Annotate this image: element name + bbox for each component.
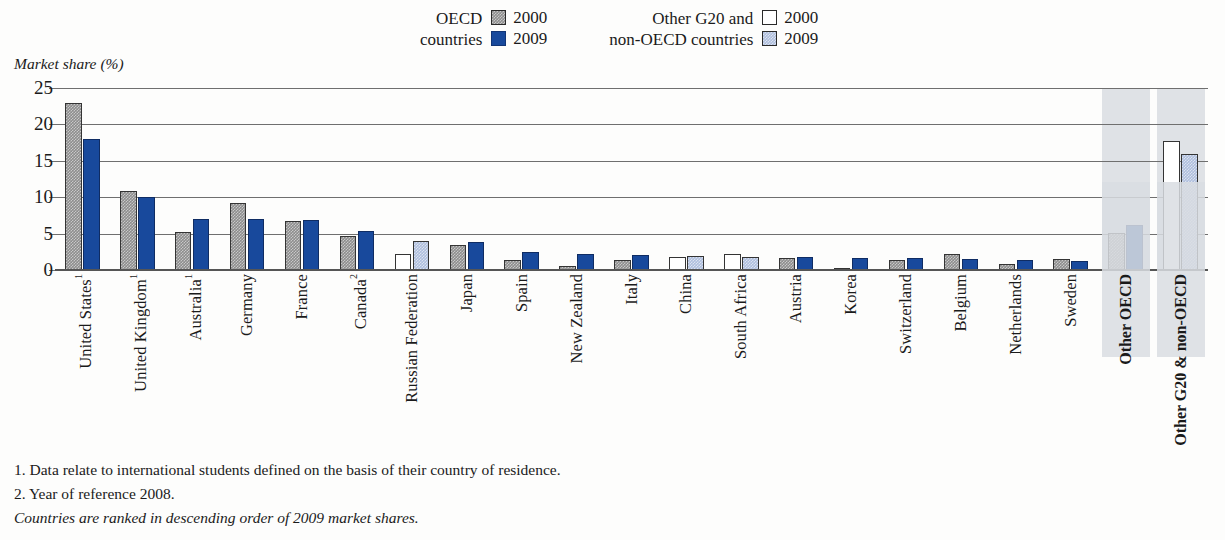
x-axis-label: Korea [843, 274, 860, 315]
light-blue-hatch-swatch [762, 31, 777, 46]
note-2: 2. Year of reference 2008. [14, 482, 1194, 506]
footnote-marker: 1 [73, 274, 84, 279]
bar-group[interactable] [604, 88, 659, 270]
footnote-marker: 1 [183, 274, 194, 279]
bar-2009[interactable] [468, 242, 485, 270]
bar-2000[interactable] [120, 191, 137, 270]
y-axis-tick-label: 10 [34, 186, 53, 208]
bar-2000[interactable] [65, 103, 82, 270]
bar-group[interactable] [879, 88, 934, 270]
bar-2000[interactable] [175, 232, 192, 270]
legend-item-label: 2009 [513, 29, 547, 48]
bar-group[interactable] [824, 88, 879, 270]
bar-2000[interactable] [285, 221, 302, 270]
y-axis-tick-label: 5 [44, 223, 54, 245]
bar-2009[interactable] [138, 197, 155, 270]
legend-group-non-oecd: Other G20 andnon-OECD countries20002009 [609, 8, 818, 50]
x-axis-line [55, 269, 1208, 271]
bar-group[interactable] [275, 88, 330, 270]
legend-keys: 20002009 [491, 8, 547, 48]
x-axis-label: Netherlands [1008, 274, 1025, 355]
bar-2009[interactable] [248, 219, 265, 270]
bar-2009[interactable] [962, 259, 979, 270]
bar-group[interactable] [988, 88, 1043, 270]
bar-group[interactable] [494, 88, 549, 270]
legend-item[interactable]: 2000 [491, 8, 547, 27]
bar-2000[interactable] [669, 257, 686, 270]
x-axis-label: Spain [514, 274, 531, 312]
bar-2009[interactable] [577, 254, 594, 270]
y-axis-tick-label: 25 [34, 77, 53, 99]
x-axis-label: Other G20 & non-OECD [1173, 274, 1189, 446]
bar-group[interactable] [384, 88, 439, 270]
x-axis-label: Belgium [953, 274, 970, 332]
bar-2009[interactable] [687, 256, 704, 270]
bar-group[interactable] [110, 88, 165, 270]
chart-figure: OECDcountries20002009Other G20 andnon-OE… [0, 0, 1225, 540]
x-axis-label: France [294, 274, 311, 320]
bar-series [55, 88, 1210, 270]
x-axis-label: China [678, 274, 695, 314]
note-1: 1. Data relate to international students… [14, 458, 1194, 482]
legend-item-label: 2000 [784, 8, 818, 27]
bar-2009[interactable] [83, 139, 100, 270]
x-axis-label: United States1 [74, 274, 94, 369]
legend-item[interactable]: 2009 [491, 29, 547, 48]
bar-2009[interactable] [193, 219, 210, 270]
x-axis-label: Switzerland [898, 274, 915, 354]
bar-2000[interactable] [944, 254, 961, 270]
bar-2000[interactable] [395, 254, 412, 270]
bar-2009[interactable] [742, 257, 759, 270]
bar-2009[interactable] [632, 255, 649, 270]
bar-2000[interactable] [230, 203, 247, 270]
bar-group[interactable] [769, 88, 824, 270]
bar-group[interactable] [549, 88, 604, 270]
x-axis-label: Sweden [1063, 274, 1080, 327]
bar-2000[interactable] [1053, 259, 1070, 270]
legend-item[interactable]: 2000 [762, 8, 818, 27]
bar-2009[interactable] [907, 258, 924, 270]
x-axis-label: New Zealand [569, 274, 586, 364]
note-ranking: Countries are ranked in descending order… [14, 506, 1194, 530]
legend-group-label: Other G20 andnon-OECD countries [609, 8, 762, 50]
bar-2009[interactable] [522, 252, 539, 270]
bar-2009[interactable] [797, 257, 814, 270]
bar-2000[interactable] [450, 245, 467, 270]
footnote-marker: 1 [128, 274, 139, 279]
x-axis-label: Canada2 [349, 274, 369, 329]
y-axis-tick-label: 20 [34, 113, 53, 135]
bar-group[interactable] [439, 88, 494, 270]
x-axis-label: Germany [239, 274, 256, 336]
bar-group[interactable] [714, 88, 769, 270]
bar-group[interactable] [330, 88, 385, 270]
x-axis-labels: United States1United Kingdom1Australia1G… [55, 274, 1210, 444]
x-axis-label: Japan [459, 274, 476, 312]
x-axis-label: Italy [624, 274, 641, 305]
bar-2009[interactable] [413, 241, 430, 270]
bar-group[interactable] [933, 88, 988, 270]
legend-group-oecd: OECDcountries20002009 [420, 8, 547, 50]
bar-2009[interactable] [358, 231, 375, 270]
y-axis-tick-label: 15 [34, 150, 53, 172]
solid-blue-swatch [491, 31, 506, 46]
plot-area: 0510152025 [55, 88, 1210, 270]
white-swatch [762, 10, 777, 25]
bar-2000[interactable] [724, 254, 741, 270]
bar-2009[interactable] [303, 220, 320, 270]
bar-group[interactable] [55, 88, 110, 270]
legend-group-label: OECDcountries [420, 8, 491, 50]
legend-item[interactable]: 2009 [762, 29, 818, 48]
legend-item-label: 2000 [513, 8, 547, 27]
x-axis-label: Russian Federation [404, 274, 421, 403]
bar-group[interactable] [220, 88, 275, 270]
bar-2000[interactable] [340, 236, 357, 270]
chart-notes: 1. Data relate to international students… [14, 458, 1194, 530]
bar-group[interactable] [659, 88, 714, 270]
bar-group[interactable] [1043, 88, 1098, 270]
x-axis-label: Other OECD [1118, 274, 1134, 365]
footnote-marker: 2 [348, 274, 359, 279]
bar-2000[interactable] [779, 258, 796, 270]
bar-group[interactable] [165, 88, 220, 270]
y-axis-title: Market share (%) [14, 55, 124, 73]
bar-2009[interactable] [852, 258, 869, 270]
